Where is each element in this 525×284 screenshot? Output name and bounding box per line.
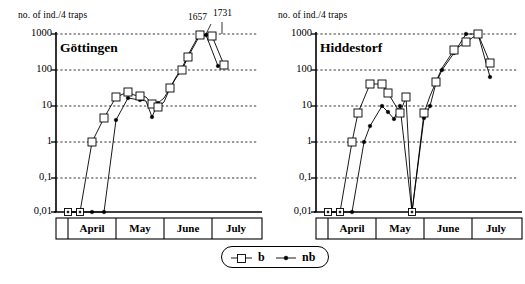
chart-panel-hiddestorf: no. of ind./4 traps Hiddestorf 1000 100 … <box>262 0 524 250</box>
filled-dot-icon <box>284 256 288 260</box>
month-label-left-may: May <box>116 222 164 234</box>
series-line-nb-goettingen <box>68 33 218 212</box>
open-square-icon <box>238 255 246 263</box>
panel-title-hiddestorf: Hiddestorf <box>320 40 382 56</box>
ytick-right-0-01: 0,01 <box>266 205 312 216</box>
month-label-left-july: July <box>212 222 260 234</box>
legend: b nb <box>221 246 329 268</box>
baseline-dot-r1 <box>327 211 329 213</box>
ytick-right-1000: 1000 <box>268 27 312 38</box>
ytick-left-1000: 1000 <box>8 27 52 38</box>
series-markers-b-goettingen <box>65 31 229 216</box>
ytick-left-1: 1 <box>8 135 52 146</box>
month-label-right-june: June <box>424 222 472 234</box>
y-axis-title-left: no. of ind./4 traps <box>18 10 87 20</box>
ytick-right-100: 100 <box>268 63 312 74</box>
chart-panel-goettingen: no. of ind./4 traps Göttingen 1657 1731 … <box>0 0 262 250</box>
panel-title-goettingen: Göttingen <box>60 40 118 56</box>
month-label-right-april: April <box>328 222 376 234</box>
ytick-left-100: 100 <box>8 63 52 74</box>
series-line-nb-hiddestorf <box>328 34 490 212</box>
annotation-1731: 1731 <box>213 8 232 18</box>
ytick-right-1: 1 <box>268 135 312 146</box>
legend-label-b: b <box>258 250 265 265</box>
ytick-left-10: 10 <box>8 99 52 110</box>
series-line-b-goettingen <box>68 35 224 212</box>
ytick-right-10: 10 <box>268 99 312 110</box>
figure-root: no. of ind./4 traps Göttingen 1657 1731 … <box>0 0 525 284</box>
baseline-dot-b1 <box>67 211 69 213</box>
month-label-left-april: April <box>68 222 116 234</box>
month-label-left-june: June <box>164 222 212 234</box>
y-axis-title-right: no. of ind./4 traps <box>278 10 347 20</box>
ytick-left-0-1: 0,1 <box>8 171 52 182</box>
baseline-dot-b2 <box>79 211 81 213</box>
month-label-right-july: July <box>472 222 520 234</box>
month-label-right-may: May <box>376 222 424 234</box>
ytick-left-0-01: 0,01 <box>6 205 52 216</box>
legend-label-nb: nb <box>302 250 315 265</box>
baseline-dot-r3 <box>411 211 413 213</box>
baseline-dot-r2 <box>339 211 341 213</box>
annotation-1657: 1657 <box>188 12 207 22</box>
ytick-right-0-1: 0,1 <box>268 171 312 182</box>
series-markers-nb-goettingen <box>90 31 220 214</box>
